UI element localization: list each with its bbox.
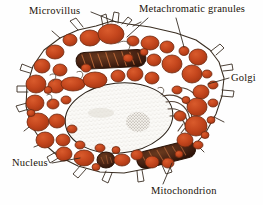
figure-canvas: Microvillus Metachromatic granules Golgi…	[0, 0, 263, 205]
label-metachromatic-granules: Metachromatic granules	[139, 4, 245, 15]
label-golgi: Golgi	[231, 73, 256, 84]
label-microvillus: Microvillus	[29, 6, 80, 17]
label-mitochondrion: Mitochondrion	[151, 186, 217, 197]
cell-diagram	[0, 0, 263, 205]
leader-microvillus	[91, 12, 116, 22]
label-nucleus: Nucleus	[12, 158, 48, 169]
